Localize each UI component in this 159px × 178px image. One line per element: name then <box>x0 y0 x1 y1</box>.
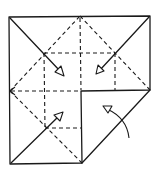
fold-arrow-line <box>100 17 149 70</box>
fold-arrow-line <box>11 116 59 163</box>
diamond-fold-bottom-left <box>10 91 82 163</box>
origami-diagram <box>0 0 159 178</box>
top-left-fold-arrow <box>10 18 64 76</box>
curved-flip-arrow <box>103 106 129 138</box>
curved-arrow-icon <box>103 106 112 113</box>
fold-arrow-line <box>10 18 60 71</box>
bottom-left-fold-arrow <box>11 112 63 163</box>
top-right-fold-arrow <box>96 17 149 74</box>
inner-vertical-left <box>44 53 45 128</box>
flap-edge <box>82 90 150 163</box>
center-vertical-fold <box>80 18 81 90</box>
